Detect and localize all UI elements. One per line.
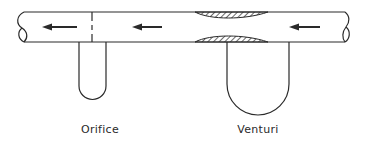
pipe-right-break xyxy=(343,12,349,42)
flow-meter-diagram: Orifice Venturi xyxy=(0,0,365,146)
venturi-label: Venturi xyxy=(237,123,278,136)
orifice-label: Orifice xyxy=(81,123,119,136)
pipe-left-break xyxy=(18,12,27,42)
venturi-bottom-constriction xyxy=(195,36,268,42)
flow-arrows xyxy=(42,24,320,31)
venturi-manometer xyxy=(227,42,289,115)
orifice-manometer xyxy=(79,42,106,100)
venturi-top-constriction xyxy=(195,12,268,18)
arrow-left-icon xyxy=(42,24,77,31)
arrow-right-icon xyxy=(289,24,320,31)
arrow-middle-icon xyxy=(132,24,162,31)
